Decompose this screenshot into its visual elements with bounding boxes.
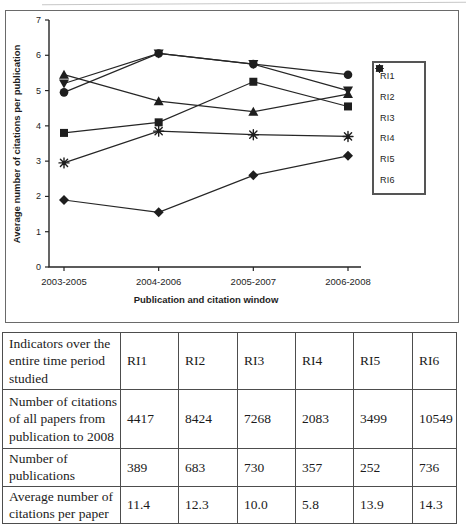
- circle-icon: [60, 88, 69, 97]
- y-tick-label: 7: [36, 15, 41, 25]
- column-header-RI1: RI1: [121, 333, 179, 390]
- series-line-RI3: [64, 131, 348, 163]
- series-line-RI5: [64, 75, 348, 112]
- scanned-figure-page: Average number of citations per publicat…: [0, 0, 466, 527]
- diamond-icon: [248, 170, 258, 180]
- legend-item-RI3: RI3: [380, 113, 422, 123]
- y-tick-label: 2: [36, 191, 41, 201]
- y-tick-label: 3: [36, 156, 41, 166]
- legend-item-RI2: RI2: [380, 92, 422, 102]
- table-header-row: Indicators over the entire time period s…: [3, 333, 457, 390]
- scan-artifact-line: [42, 2, 466, 6]
- chart-figure: Average number of citations per publicat…: [5, 10, 459, 323]
- value-cell-RI6: 10549: [413, 390, 457, 449]
- legend-label: RI2: [380, 92, 395, 102]
- asterisk-icon: [59, 158, 69, 168]
- value-cell-RI6: 14.3: [413, 486, 457, 524]
- column-header-RI4: RI4: [296, 333, 354, 390]
- table-row: Number of publications389683730357252736: [3, 449, 457, 487]
- legend-item-RI6: RI6: [380, 175, 422, 185]
- y-tick-label: 4: [36, 121, 41, 131]
- table-row: Average number of citations per paper11.…: [3, 486, 457, 524]
- value-cell-RI1: 389: [121, 449, 179, 487]
- chart-legend: RI1RI2RI3RI4RI5RI6: [372, 61, 426, 195]
- value-cell-RI2: 683: [179, 449, 238, 487]
- y-tick-label: 6: [36, 50, 41, 60]
- legend-item-RI1: RI1: [380, 71, 422, 81]
- asterisk-icon: [343, 131, 353, 141]
- value-cell-RI1: 11.4: [121, 486, 179, 524]
- value-cell-RI4: 5.8: [296, 486, 354, 524]
- x-tick-label: 2003-2005: [41, 276, 86, 287]
- y-tick-label: 1: [36, 227, 41, 237]
- legend-label: RI6: [380, 175, 395, 185]
- column-header-RI3: RI3: [238, 333, 296, 390]
- square-icon: [60, 129, 68, 137]
- indicators-table: Indicators over the entire time period s…: [2, 332, 457, 524]
- value-cell-RI2: 12.3: [179, 486, 238, 524]
- row-label-cell: Number of publications: [3, 449, 121, 487]
- value-cell-RI3: 7268: [238, 390, 296, 449]
- legend-item-RI5: RI5: [380, 154, 422, 164]
- value-cell-RI5: 252: [354, 449, 413, 487]
- value-cell-RI5: 3499: [354, 390, 413, 449]
- x-tick-label: 2006-2008: [325, 276, 370, 287]
- legend-label: RI3: [380, 113, 395, 123]
- asterisk-icon: [248, 130, 258, 140]
- value-cell-RI6: 736: [413, 449, 457, 487]
- x-axis-title: Publication and citation window: [134, 294, 279, 305]
- triangle-up-icon: [59, 70, 69, 79]
- value-cell-RI3: 10.0: [238, 486, 296, 524]
- plot-area: 012345672003-20052004-20062005-20072006-…: [36, 15, 371, 287]
- value-cell-RI5: 13.9: [354, 486, 413, 524]
- y-axis-title: Average number of citations per publicat…: [11, 44, 22, 243]
- series-line-RI4: [64, 156, 348, 212]
- series-line-RI1: [64, 82, 348, 133]
- triangle-down-icon: [59, 80, 69, 89]
- row-label-cell: Average number of citations per paper: [3, 486, 121, 524]
- x-tick-label: 2005-2007: [231, 276, 276, 287]
- y-tick-label: 5: [36, 86, 41, 96]
- diamond-icon: [154, 207, 164, 217]
- asterisk-icon: [154, 126, 164, 136]
- table-corner-cell: Indicators over the entire time period s…: [3, 333, 121, 390]
- legend-label: RI5: [380, 154, 395, 164]
- triangle-down-icon: [374, 63, 385, 74]
- circle-icon: [344, 70, 353, 79]
- value-cell-RI2: 8424: [179, 390, 238, 449]
- square-icon: [249, 78, 257, 86]
- column-header-RI2: RI2: [179, 333, 238, 390]
- axes: [49, 20, 361, 267]
- square-icon: [155, 118, 163, 126]
- column-header-RI5: RI5: [354, 333, 413, 390]
- legend-label: RI4: [380, 133, 395, 143]
- value-cell-RI3: 730: [238, 449, 296, 487]
- diamond-icon: [59, 195, 69, 205]
- column-header-RI6: RI6: [413, 333, 457, 390]
- row-label-cell: Number of citations of all papers from p…: [3, 390, 121, 449]
- legend-item-RI4: RI4: [380, 133, 422, 143]
- x-tick-label: 2004-2006: [136, 276, 181, 287]
- table-row: Number of citations of all papers from p…: [3, 390, 457, 449]
- value-cell-RI1: 4417: [121, 390, 179, 449]
- square-icon: [344, 102, 352, 110]
- triangle-down-icon: [376, 65, 384, 72]
- value-cell-RI4: 2083: [296, 390, 354, 449]
- series-line-RI6: [64, 54, 348, 91]
- diamond-icon: [343, 151, 353, 161]
- value-cell-RI4: 357: [296, 449, 354, 487]
- y-tick-label: 0: [36, 262, 41, 272]
